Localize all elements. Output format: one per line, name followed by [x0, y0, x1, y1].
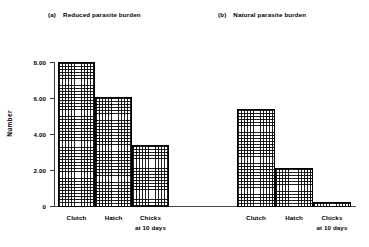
y-axis-title: Number	[6, 99, 13, 149]
y-tick-8	[50, 62, 54, 63]
bar-panel-b-hatch	[275, 168, 313, 207]
y-tick-label-8: 8.00	[6, 59, 46, 66]
y-tick-label-0: 0	[6, 203, 46, 210]
bar-panel-a-clutch	[58, 62, 95, 207]
y-tick-6	[50, 98, 54, 99]
y-tick-2	[50, 170, 54, 171]
x-tick-label-b-chicks: Chicks at 10 days	[303, 213, 361, 232]
bar-panel-b-clutch	[237, 109, 275, 207]
x-tick-label-a-chicks-line2: at 10 days	[135, 224, 166, 231]
y-tick-4	[50, 134, 54, 135]
y-tick-label-2: 2.00	[6, 167, 46, 174]
x-tick-label-a-chicks-line1: Chicks	[140, 214, 161, 221]
panel-a-tag: (a)	[48, 11, 56, 18]
bar-panel-b-chicks	[313, 202, 351, 208]
panel-a-title: (a)Reduced parasite burden	[48, 11, 141, 18]
x-tick-label-b-chicks-line2: at 10 days	[317, 224, 348, 231]
panel-b-title-text: Natural parasite burden	[233, 11, 306, 18]
bar-chart-figure: (a)Reduced parasite burden (b)Natural pa…	[0, 0, 369, 247]
x-tick-label-b-chicks-line1: Chicks	[322, 214, 343, 221]
panel-b-title: (b)Natural parasite burden	[218, 11, 306, 18]
x-tick-label-a-chicks: Chicks at 10 days	[122, 213, 179, 232]
panel-b-tag: (b)	[218, 11, 226, 18]
bar-panel-a-chicks	[132, 145, 169, 207]
panel-a-title-text: Reduced parasite burden	[63, 11, 141, 18]
y-axis-line	[54, 62, 55, 207]
bar-panel-a-hatch	[95, 97, 132, 207]
